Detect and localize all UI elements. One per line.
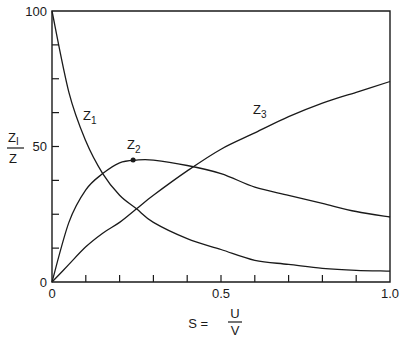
x-tick-label-0.5: 0.5 xyxy=(212,286,230,301)
y-tick-label-50: 50 xyxy=(33,139,47,154)
svg-text:S =: S = xyxy=(188,316,208,331)
svg-text:Z: Z xyxy=(9,151,17,166)
curve-z2 xyxy=(52,160,390,282)
chart: 100 50 0 0 0.5 1.0 ZI Z S = U V Z1 Z2 Z3 xyxy=(0,0,404,340)
series-label-z3: Z3 xyxy=(253,102,267,120)
curve-z3 xyxy=(52,82,390,283)
axis-ticks xyxy=(52,45,356,282)
y-axis-label: ZI Z xyxy=(7,130,24,166)
y-tick-label-100: 100 xyxy=(25,4,47,19)
svg-text:U: U xyxy=(230,306,239,321)
data-curves xyxy=(52,11,390,282)
peak-marker-z2 xyxy=(131,158,136,163)
svg-text:ZI: ZI xyxy=(8,130,19,147)
x-tick-label-0: 0 xyxy=(48,286,55,301)
x-axis-label: S = U V xyxy=(188,306,242,338)
svg-text:V: V xyxy=(231,323,240,338)
series-label-z2: Z2 xyxy=(127,137,141,155)
curve-z1 xyxy=(52,11,390,271)
x-tick-label-1.0: 1.0 xyxy=(381,286,399,301)
plot-frame xyxy=(52,11,390,282)
series-label-z1: Z1 xyxy=(83,108,97,126)
y-tick-label-0: 0 xyxy=(40,275,47,290)
